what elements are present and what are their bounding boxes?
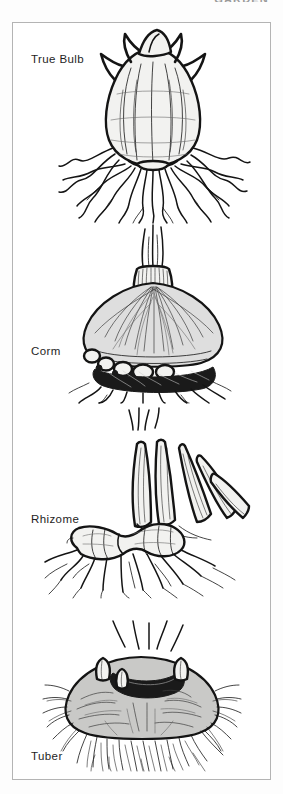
panel-label-corm: Corm [31,345,61,357]
bulb-body [101,30,205,170]
illustration-tuber [41,621,251,771]
illustration-rhizome [33,408,258,598]
panel-tuber: Tuber [13,603,270,781]
bulb-roots [63,164,243,223]
illustration-true-bulb [53,28,253,223]
rhizome-body [67,524,184,559]
illustration-frame: True Bulb [12,22,271,780]
panel-true-bulb: True Bulb [13,23,270,223]
corm-shoots [142,225,163,267]
rhizome-roots [45,550,215,592]
panel-rhizome: Rhizome [13,398,270,603]
rhizome-leaf-tips [129,408,159,430]
corm-root-band [93,367,215,392]
diagram-page: GARDEN True Bulb [0,0,283,794]
tuber-body [66,657,219,739]
corm-body [84,283,223,367]
panel-corm: Corm [13,223,270,398]
running-header: GARDEN [214,0,269,2]
illustration-corm [61,223,246,403]
tuber-stems [113,621,183,651]
